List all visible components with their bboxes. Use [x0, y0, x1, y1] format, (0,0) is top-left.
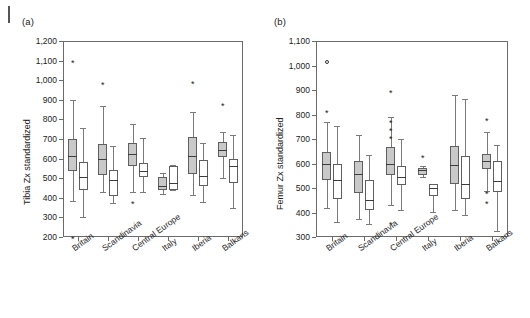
y-tick — [312, 41, 316, 42]
outlier-star-marker: * — [101, 81, 105, 90]
whisker-cap — [70, 100, 76, 101]
whisker-cap — [100, 106, 106, 107]
whisker-cap — [420, 177, 426, 178]
outlier-star-marker: * — [325, 108, 329, 117]
whisker-cap — [398, 210, 404, 211]
outlier-star-marker: * — [485, 190, 489, 199]
median-line — [482, 161, 491, 162]
y-tick-label: 900 — [15, 95, 57, 105]
y-tick — [312, 164, 316, 165]
y-tick — [59, 119, 63, 120]
outlier-circle-marker — [325, 60, 329, 64]
box-open — [333, 164, 342, 199]
whisker-cap — [452, 210, 458, 211]
whisker-cap — [462, 215, 468, 216]
median-line — [218, 150, 227, 151]
y-tick-label: 600 — [15, 154, 57, 164]
y-tick — [59, 100, 63, 101]
whisker-cap — [356, 135, 362, 136]
y-tick — [312, 188, 316, 189]
outlier-star-marker: * — [221, 101, 225, 110]
median-line — [199, 176, 208, 177]
y-tick — [59, 139, 63, 140]
whisker-cap — [200, 202, 206, 203]
whisker-cap — [366, 155, 372, 156]
median-line — [429, 188, 438, 189]
whisker-cap — [110, 203, 116, 204]
y-tick-label: 1,200 — [15, 36, 57, 46]
whisker-cap — [70, 201, 76, 202]
whisker-cap — [356, 219, 362, 220]
median-line — [109, 180, 118, 181]
box-open — [139, 163, 148, 177]
y-tick — [312, 115, 316, 116]
median-line — [158, 186, 167, 187]
whisker-cap — [366, 224, 372, 225]
whisker-cap — [220, 178, 226, 179]
box-shaded — [386, 147, 395, 175]
panel-b: (b) Femur Zx standardized 30040050060070… — [265, 0, 530, 318]
outlier-star-marker: * — [389, 221, 393, 230]
median-line — [139, 171, 148, 172]
y-tick-label: 1,100 — [15, 56, 57, 66]
median-line — [386, 164, 395, 165]
whisker-cap — [334, 126, 340, 127]
whisker-cap — [190, 195, 196, 196]
y-tick-label: 1,100 — [268, 36, 310, 46]
y-tick-label: 500 — [15, 173, 57, 183]
median-line — [169, 183, 178, 184]
median-line — [229, 166, 238, 167]
outlier-star-marker: * — [71, 58, 75, 67]
y-tick — [59, 159, 63, 160]
y-tick-label: 900 — [268, 85, 310, 95]
panel-a-plot-area — [63, 41, 243, 237]
y-tick-label: 300 — [268, 232, 310, 242]
y-tick-label: 800 — [15, 114, 57, 124]
y-tick-label: 800 — [268, 110, 310, 120]
whisker-cap — [334, 222, 340, 223]
median-line — [354, 174, 363, 175]
y-tick — [312, 213, 316, 214]
whisker-cap — [160, 173, 166, 174]
y-tick — [59, 217, 63, 218]
median-line — [365, 200, 374, 201]
panel-b-label: (b) — [274, 16, 286, 27]
y-tick-label: 700 — [15, 134, 57, 144]
median-line — [461, 184, 470, 185]
whisker-cap — [484, 132, 490, 133]
median-line — [322, 164, 331, 165]
box-open — [461, 156, 470, 199]
whisker-cap — [230, 208, 236, 209]
whisker-cap — [130, 192, 136, 193]
y-tick — [312, 90, 316, 91]
whisker-cap — [130, 124, 136, 125]
box-open — [229, 159, 238, 183]
whisker-cap — [324, 122, 330, 123]
whisker-cap — [324, 208, 330, 209]
y-tick — [59, 80, 63, 81]
y-tick — [59, 198, 63, 199]
whisker-cap — [140, 138, 146, 139]
y-tick — [312, 237, 316, 238]
y-tick — [59, 61, 63, 62]
whisker-cap — [220, 132, 226, 133]
outlier-star-marker: * — [485, 200, 489, 209]
box-open — [365, 180, 374, 209]
whisker-cap — [160, 194, 166, 195]
whisker-cap — [494, 231, 500, 232]
median-line — [128, 154, 137, 155]
box-open — [429, 184, 438, 196]
outlier-star-marker: * — [191, 79, 195, 88]
median-line — [98, 159, 107, 160]
outlier-star-marker: * — [131, 200, 135, 209]
box-shaded — [158, 177, 167, 190]
whisker-cap — [110, 146, 116, 147]
whisker-cap — [100, 192, 106, 193]
box-shaded — [322, 152, 331, 180]
y-tick-label: 1,000 — [15, 75, 57, 85]
panel-b-plot-area — [316, 41, 508, 237]
y-tick-label: 400 — [268, 208, 310, 218]
x-axis-label: Italy — [420, 236, 438, 253]
whisker-cap — [388, 205, 394, 206]
figure-boxplots: (a) Tibia Zx standardized 20030040050060… — [0, 0, 530, 318]
